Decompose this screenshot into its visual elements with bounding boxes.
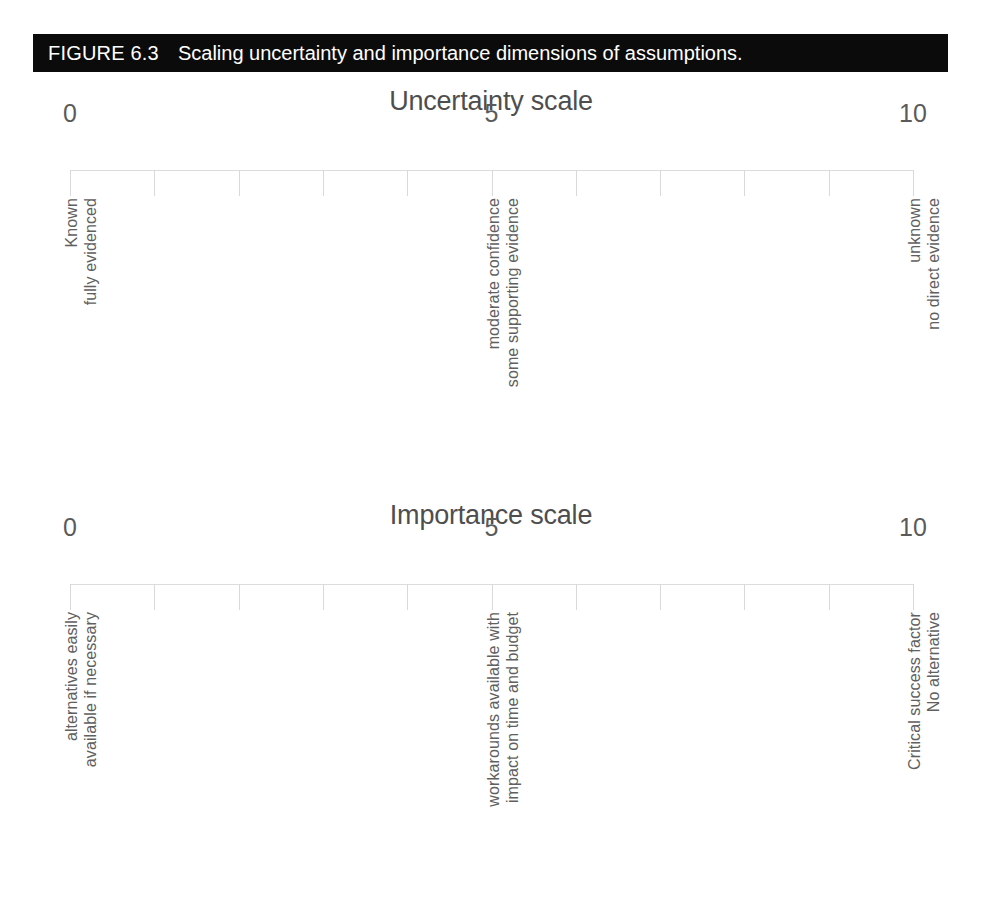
tick-mark — [913, 170, 914, 196]
descriptor-text: fully evidenced — [82, 198, 100, 305]
figure-number-label: FIGURE 6.3 — [48, 42, 159, 65]
tick-mark — [70, 584, 71, 610]
descriptor-text: no direct evidence — [925, 198, 943, 330]
tick-mark — [492, 584, 493, 610]
figure-caption-bar: FIGURE 6.3 Scaling uncertainty and impor… — [33, 34, 948, 72]
importance-ruler — [70, 584, 913, 610]
tick-mark — [154, 170, 155, 196]
descriptor-text: alternatives easily — [63, 612, 81, 741]
tick-number-5: 5 — [485, 513, 499, 542]
tick-number-10: 10 — [899, 513, 927, 542]
descriptor-text: Known — [63, 198, 81, 247]
tick-mark — [660, 170, 661, 196]
descriptor-text: unknown — [906, 198, 924, 263]
descriptor-text: moderate confidence — [485, 198, 503, 349]
tick-mark — [744, 584, 745, 610]
descriptor-text: workarounds available with — [485, 612, 503, 807]
descriptor-text: Critical success factor — [906, 612, 924, 770]
tick-number-5: 5 — [485, 99, 499, 128]
descriptor-text: No alternative — [925, 612, 943, 712]
tick-mark — [492, 170, 493, 196]
tick-number-0: 0 — [63, 513, 77, 542]
tick-mark — [323, 170, 324, 196]
tick-mark — [576, 584, 577, 610]
tick-mark — [829, 170, 830, 196]
tick-mark — [239, 170, 240, 196]
descriptor-text: some supporting evidence — [504, 198, 522, 387]
tick-mark — [660, 584, 661, 610]
tick-number-0: 0 — [63, 99, 77, 128]
uncertainty-ruler — [70, 170, 913, 196]
tick-mark — [239, 584, 240, 610]
descriptor-text: impact on time and budget — [504, 612, 522, 803]
tick-mark — [407, 584, 408, 610]
tick-mark — [407, 170, 408, 196]
tick-mark — [323, 584, 324, 610]
figure-caption-text: Scaling uncertainty and importance dimen… — [178, 42, 743, 65]
tick-mark — [829, 584, 830, 610]
tick-number-10: 10 — [899, 99, 927, 128]
tick-mark — [154, 584, 155, 610]
tick-mark — [576, 170, 577, 196]
tick-mark — [913, 584, 914, 610]
descriptor-text: available if necessary — [82, 612, 100, 767]
tick-mark — [70, 170, 71, 196]
tick-mark — [744, 170, 745, 196]
